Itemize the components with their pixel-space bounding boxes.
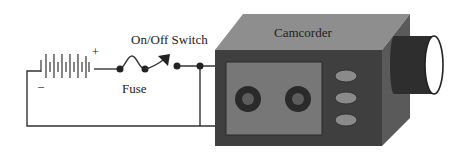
switch-label: On/Off Switch [131, 32, 208, 47]
battery-plus-label: + [92, 45, 99, 59]
circuit-diagram: + – Fuse On/Off Switch [0, 0, 467, 154]
fuse-icon [117, 56, 149, 73]
camcorder-button-3 [335, 114, 357, 126]
camcorder-button-1 [335, 70, 357, 82]
lens-opening [425, 36, 443, 94]
camcorder-label: Camcorder [274, 25, 332, 40]
fuse-label: Fuse [122, 81, 147, 96]
battery-icon [41, 54, 89, 78]
circuit-wires [27, 66, 216, 126]
camcorder-button-2 [335, 92, 357, 104]
battery-minus-label: – [37, 79, 45, 93]
switch-icon [145, 54, 204, 70]
